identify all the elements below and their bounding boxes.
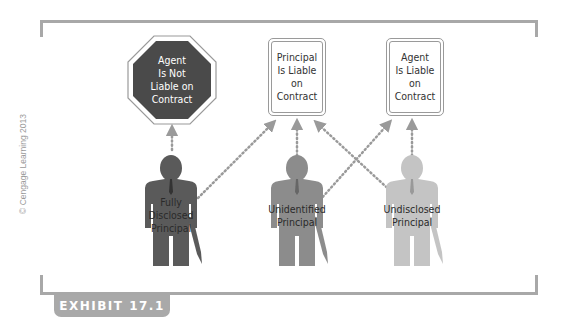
label-line: Principal — [372, 216, 452, 229]
outcome-line: Agent — [395, 51, 436, 64]
outcome-agent-not-liable: Agent Is Not Liable on Contract — [128, 36, 216, 124]
label-line: Principal — [257, 216, 337, 229]
label-line: Fully — [136, 196, 206, 209]
outcome-line: Is Not — [151, 67, 194, 80]
label-unidentified-principal: Unidentified Principal — [257, 203, 337, 229]
outcome-line: Is Liable — [395, 64, 436, 77]
label-undisclosed-principal: Undisclosed Principal — [372, 203, 452, 229]
outcome-line: Contract — [277, 90, 318, 103]
outcome-line: Contract — [395, 90, 436, 103]
outcome-line: Principal — [277, 51, 318, 64]
label-line: Unidentified — [257, 203, 337, 216]
outcome-principal-liable: Principal Is Liable on Contract — [268, 38, 326, 116]
label-fully-disclosed-principal: Fully Disclosed Principal — [136, 196, 206, 235]
outcome-line: on — [395, 77, 436, 90]
outcome-agent-liable: Agent Is Liable on Contract — [386, 38, 444, 116]
label-line: Disclosed — [136, 209, 206, 222]
outcome-line: Is Liable — [277, 64, 318, 77]
outcome-line: Agent — [151, 54, 194, 67]
arrow-fully-to-principal-liable — [198, 124, 272, 198]
outcome-line: on — [277, 77, 318, 90]
label-line: Undisclosed — [372, 203, 452, 216]
label-line: Principal — [136, 222, 206, 235]
outcome-line: Contract — [151, 93, 194, 106]
outcome-line: Liable on — [151, 80, 194, 93]
